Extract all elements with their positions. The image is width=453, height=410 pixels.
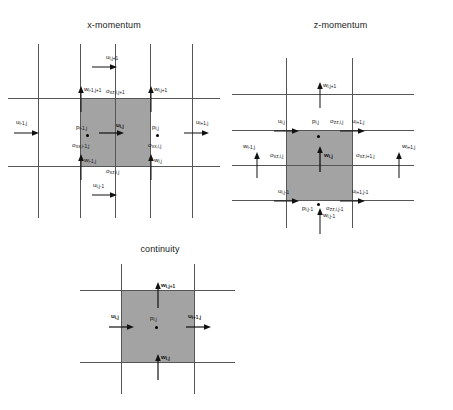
label-w-top: wi,j+1 (161, 282, 175, 289)
pressure-node-dot (155, 326, 158, 329)
w-vector-arrow-right (394, 152, 403, 178)
u-vector-arrow-left (109, 322, 135, 331)
label-u-left: ui-1,j (16, 119, 27, 126)
u-vector-arrow-top-left (274, 126, 300, 135)
u-vector-arrow-top-right (340, 126, 366, 135)
label-w-left: wi-1,j (243, 143, 255, 150)
label-u-left: ui,j (111, 313, 119, 320)
label-u-bottom-left: ui,j-1 (278, 188, 289, 195)
label-sigma-zz-top: σzz,i,j (330, 118, 343, 125)
label-u-right: ui+1,j (188, 313, 201, 320)
u-vector-arrow-center (99, 128, 125, 137)
gridline-horizontal (232, 130, 414, 131)
label-sigma-xx-left: σxx,i-1,j (72, 142, 89, 149)
x-momentum-grid: ui,j+1 ui-1,j ui+1,j ui,j-1 ui,j wi-1,j+… (0, 0, 228, 228)
label-w-bottom-right: wi,j (154, 157, 162, 164)
label-u-right: ui+1,j (196, 119, 208, 126)
pressure-node-dot (156, 134, 159, 137)
u-vector-arrow-top (92, 62, 118, 71)
label-sigma-xz-bottom: σxz,i,j (106, 168, 119, 175)
label-u-bottom-right: ui+1,j-1 (352, 188, 368, 195)
label-p-right: pi,j (152, 124, 159, 131)
pressure-node-dot (317, 135, 320, 138)
gridline-vertical (150, 44, 151, 218)
label-u-top-right: ui+1,j (352, 118, 364, 125)
label-w-center: wi,j (324, 152, 333, 159)
label-sigma-xz-left: σxz,i,j (270, 152, 283, 159)
u-vector-arrow-right (186, 322, 212, 331)
label-u-top: ui,j+1 (106, 54, 118, 61)
label-u-top-left: ui,j (278, 118, 285, 125)
u-vector-arrow-bottom-right (340, 196, 366, 205)
label-sigma-zz-bottom: σzz,i,j-1 (326, 205, 343, 212)
panel-z-momentum: z-momentum (228, 0, 453, 235)
label-sigma-xz-right: σxz,i+1,j (356, 152, 375, 159)
label-w-bottom: wi,j (161, 354, 170, 361)
gridline-vertical (80, 44, 81, 218)
u-vector-arrow-right (184, 128, 210, 137)
w-vector-arrow-left (252, 152, 261, 178)
w-vector-arrow-center (315, 146, 324, 172)
u-vector-arrow-bottom (92, 190, 118, 199)
pressure-node-dot (317, 203, 320, 206)
label-p-bottom: pi,j-1 (302, 205, 313, 212)
u-vector-arrow-left (14, 128, 40, 137)
gridline-horizontal (8, 98, 220, 99)
panel-continuity: continuity wi,j+1 wi,j ui,j (60, 230, 260, 410)
label-sigma-xx-right: σxx,i,j (148, 142, 161, 149)
panel-x-momentum: x-momentum (0, 0, 228, 228)
label-w-bottom-left: wi-1,j (84, 157, 96, 164)
pressure-node-dot (86, 134, 89, 137)
u-vector-arrow-bottom-left (274, 196, 300, 205)
label-p-left: pi-1,j (76, 124, 87, 131)
label-w-top-left: wi-1,j+1 (84, 86, 101, 93)
z-momentum-grid: wi,j+1 wi-1,j wi+1,j wi,j-1 wi,j ui,j ui… (228, 0, 453, 235)
continuity-grid: wi,j+1 wi,j ui,j ui+1,j pi,j (60, 230, 260, 410)
label-u-bottom: ui,j-1 (93, 182, 104, 189)
label-w-top: wi,j+1 (323, 82, 336, 89)
label-w-right: wi+1,j (402, 143, 415, 150)
label-w-top-right: wi,j+1 (154, 86, 167, 93)
label-sigma-xz-top: σxz,i,j+1 (106, 88, 125, 95)
label-p-center: pi,j (150, 315, 157, 322)
gridline-horizontal (232, 200, 414, 201)
label-w-bottom: wi,j-1 (323, 212, 335, 219)
label-u-center: ui,j (116, 122, 124, 129)
label-p-top: pi,j (312, 118, 319, 125)
gridline-horizontal (8, 166, 220, 167)
